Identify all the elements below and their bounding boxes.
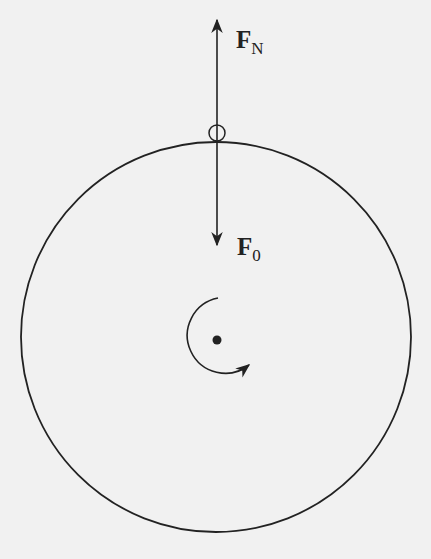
downward-force-label: F0 bbox=[237, 233, 261, 266]
center-dot bbox=[213, 336, 222, 345]
normal-force-label: FN bbox=[236, 26, 264, 59]
diagram-canvas bbox=[0, 0, 431, 559]
rotation-arrow-icon bbox=[187, 298, 249, 373]
